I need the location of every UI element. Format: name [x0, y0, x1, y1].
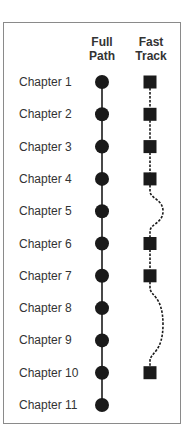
full-path-circle-icon [95, 301, 109, 315]
full-path-circle-icon [95, 269, 109, 283]
full-path-circle-icon [95, 204, 109, 218]
path-diagram [0, 0, 187, 448]
full-path-circle-icon [95, 107, 109, 121]
fast-track-square-icon [144, 269, 157, 282]
fast-track-square-icon [144, 140, 157, 153]
fast-track-square-icon [144, 237, 157, 250]
fast-track-square-icon [144, 108, 157, 121]
full-path-circle-icon [95, 398, 109, 412]
full-path-circle-icon [95, 366, 109, 380]
fast-track-square-icon [144, 366, 157, 379]
fast-track-connector [150, 282, 163, 367]
full-path-circle-icon [95, 172, 109, 186]
full-path-circle-icon [95, 237, 109, 251]
full-path-circle-icon [95, 333, 109, 347]
full-path-circle-icon [95, 140, 109, 154]
fast-track-square-icon [144, 172, 157, 185]
fast-track-connector [150, 185, 163, 238]
full-path-circle-icon [95, 75, 109, 89]
fast-track-square-icon [144, 76, 157, 89]
